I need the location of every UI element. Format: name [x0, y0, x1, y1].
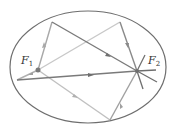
focus-f2-label: F2 — [147, 54, 160, 68]
ellipse-reflection-diagram: F1 F2 — [0, 0, 176, 133]
f2-spoke — [137, 55, 145, 71]
ray-top-left-to-f2 — [52, 22, 137, 71]
focus-f1-point — [36, 68, 41, 73]
focus-f2-point — [135, 69, 139, 73]
f2-spoke — [137, 70, 156, 71]
ellipse-outline — [10, 11, 166, 123]
ray-left-to-f2 — [17, 71, 137, 80]
ray-top-right-to-f2 — [120, 22, 137, 71]
arrowhead-icon — [120, 103, 123, 109]
focus-f1-label: F1 — [20, 54, 33, 68]
